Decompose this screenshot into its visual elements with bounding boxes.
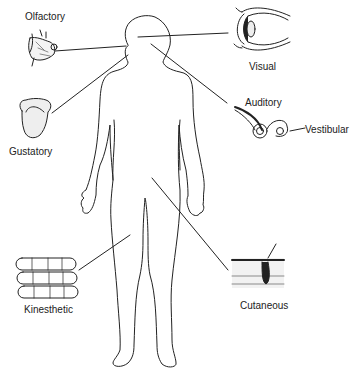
label-auditory: Auditory [245,97,282,108]
nose-icon [29,30,57,66]
label-cutaneous: Cutaneous [240,300,288,311]
label-kinesthetic: Kinesthetic [24,304,73,315]
skin-section-icon [232,244,284,288]
ear-cochlea-icon [235,107,288,138]
visual-pointer [138,33,228,37]
senses-diagram [0,0,357,379]
muscle-fibers-icon [16,258,78,298]
human-body-outline [81,16,204,367]
kinesthetic-pointer [79,235,130,270]
cutaneous-pointer [152,178,228,270]
label-visual: Visual [249,61,276,72]
vestibular-pointer [290,128,305,131]
eye-icon [234,8,290,50]
tongue-icon [20,99,51,138]
gustatory-pointer [52,55,128,113]
label-olfactory: Olfactory [25,11,65,22]
label-vestibular: Vestibular [305,124,349,135]
label-gustatory: Gustatory [9,146,52,157]
olfactory-pointer [55,46,126,51]
auditory-pointer [151,44,227,103]
